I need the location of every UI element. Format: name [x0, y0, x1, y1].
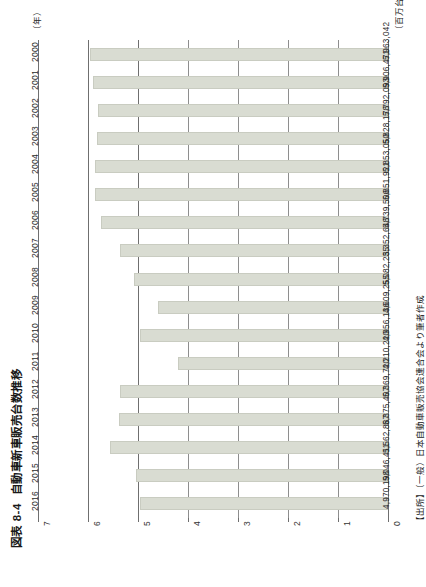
- bar-2013: [119, 413, 388, 426]
- tick-4: [188, 518, 189, 522]
- source-note: 【出所】（一般）日本自動車販売協会連合会より筆者作成: [412, 295, 426, 525]
- category-label-2007: 2007: [30, 238, 40, 258]
- bar-2005: [95, 188, 388, 201]
- bar-2016: [140, 497, 389, 510]
- bar-2014: [110, 441, 388, 454]
- category-label-2008: 2008: [30, 266, 40, 286]
- figure-page: 図表 8-4自動車新車販売台数推移 （年） （百万台） 01234567 5,9…: [0, 0, 426, 587]
- bar-2012: [120, 385, 388, 398]
- figure-title-text: 自動車新車販売台数推移: [11, 369, 23, 496]
- tick-2: [288, 518, 289, 522]
- bar-2001: [93, 76, 388, 89]
- tick-label-3: 3: [242, 521, 252, 526]
- category-label-2009: 2009: [30, 295, 40, 315]
- bar-2010: [140, 329, 388, 342]
- bar-2015: [136, 469, 388, 482]
- category-label-2011: 2011: [30, 351, 40, 370]
- category-label-2004: 2004: [30, 154, 40, 174]
- tick-label-2: 2: [292, 521, 302, 526]
- chart-plot-area: [38, 40, 388, 518]
- value-axis-unit-caption: （百万台）: [392, 0, 404, 34]
- category-label-2006: 2006: [30, 210, 40, 230]
- category-label-2001: 2001: [30, 70, 40, 90]
- tick-label-6: 6: [92, 521, 102, 526]
- category-label-2003: 2003: [30, 126, 40, 146]
- tick-1: [338, 518, 339, 522]
- bar-2002: [98, 104, 388, 117]
- category-label-2016: 2016: [30, 491, 40, 511]
- category-label-2012: 2012: [30, 379, 40, 399]
- tick-label-7: 7: [42, 521, 52, 526]
- bar-value-label-2016: 4,970,198: [382, 471, 391, 509]
- tick-label-0: 0: [392, 521, 402, 526]
- tick-7: [38, 518, 39, 522]
- category-axis-title: （年）: [30, 7, 42, 34]
- bar-2011: [178, 357, 389, 370]
- tick-3: [238, 518, 239, 522]
- bar-2003: [97, 132, 388, 145]
- bar-2006: [101, 216, 388, 229]
- tick-label-1: 1: [342, 521, 352, 526]
- category-label-2013: 2013: [30, 407, 40, 427]
- tick-5: [138, 518, 139, 522]
- tick-0: [388, 518, 389, 522]
- bar-2009: [158, 301, 388, 314]
- figure-number: 図表 8-4: [11, 503, 23, 548]
- category-label-2002: 2002: [30, 98, 40, 118]
- tick-label-4: 4: [192, 521, 202, 526]
- category-label-2000: 2000: [30, 41, 40, 61]
- bar-2000: [90, 48, 388, 61]
- gridline-6: [88, 40, 89, 518]
- category-label-2015: 2015: [30, 463, 40, 483]
- figure-title: 図表 8-4自動車新車販売台数推移: [6, 338, 28, 548]
- bar-2007: [120, 244, 388, 257]
- category-label-2010: 2010: [30, 323, 40, 343]
- bar-2004: [95, 160, 388, 173]
- category-label-2005: 2005: [30, 182, 40, 202]
- category-label-2014: 2014: [30, 435, 40, 455]
- tick-6: [88, 518, 89, 522]
- bar-2008: [134, 273, 388, 286]
- tick-label-5: 5: [142, 521, 152, 526]
